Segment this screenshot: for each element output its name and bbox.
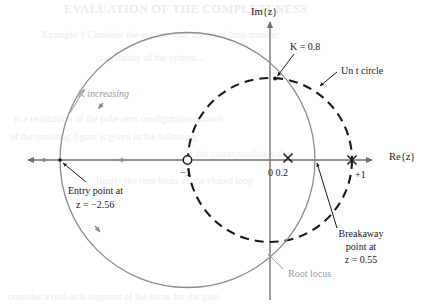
leader-unit-circle [320,72,337,86]
imaginary-axis-label: Im{z} [251,6,277,19]
gain-marker-label: K = 0.8 [290,41,320,53]
k-increasing-label: K increasing [78,88,129,100]
leader-gain-marker [278,54,295,76]
breakaway-label-line3: z = 0.55 [330,254,392,266]
breakaway-label-line2: point at [330,241,392,253]
entry-point-label-line2: z = −2.56 [76,199,114,211]
leader-entry-point [63,163,86,182]
tick-label-plus-one: +1 [355,169,366,181]
leader-lines [63,54,337,269]
entry-point-marker [58,158,62,162]
root-locus-figure: EVALUATION OF THE COMPLETENESS Example 1… [0,0,428,306]
root-locus-label: Root locus [288,268,331,280]
unit-circle-label: Un t circle [341,65,383,77]
breakaway-label-line1: Breakaway [330,228,392,240]
real-axis-label: Re{z} [389,151,415,164]
axes-group [28,22,372,300]
tick-label-minus-one: −1 [180,167,191,179]
zero-marker-minus-one [183,156,191,164]
tick-label-zero-and-pole: 0 0.2 [268,167,288,179]
locus-direction-arrows [40,103,126,232]
pole-marker-zero-point-two [284,154,293,163]
entry-point-label-line1: Entry point at [68,185,123,197]
gain-point-marker [273,77,277,81]
